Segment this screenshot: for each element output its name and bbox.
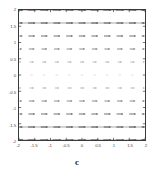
field-arrow xyxy=(19,126,22,128)
field-arrow xyxy=(19,10,22,11)
x-tick-label: -0.5 xyxy=(63,143,70,148)
field-arrow xyxy=(19,113,22,115)
field-arrow xyxy=(105,61,109,62)
field-arrow xyxy=(53,126,60,128)
field-arrow xyxy=(129,22,136,24)
field-arrow xyxy=(130,100,136,102)
field-arrow xyxy=(55,61,59,62)
field-arrow xyxy=(28,35,34,37)
field-arrow xyxy=(91,22,98,24)
field-arrow xyxy=(141,10,144,11)
y-tick-label: 0 xyxy=(14,73,16,78)
field-arrow xyxy=(41,48,47,50)
field-arrow xyxy=(28,139,36,140)
field-arrow xyxy=(54,100,60,102)
field-arrow xyxy=(116,22,123,24)
field-arrow xyxy=(118,87,122,88)
field-arrow xyxy=(79,126,86,128)
field-arrow xyxy=(103,10,111,11)
field-arrow xyxy=(128,10,136,11)
field-arrow xyxy=(28,113,34,115)
field-arrow xyxy=(19,48,21,50)
field-arrow xyxy=(19,22,22,24)
field-arrow xyxy=(130,48,136,50)
field-arrow xyxy=(143,87,145,88)
y-axis-tick-labels: 21.510.50-0.5-1-1.5-2 xyxy=(0,9,16,141)
field-arrow xyxy=(143,61,145,62)
field-arrow xyxy=(104,113,110,115)
field-arrow xyxy=(130,87,134,88)
field-arrow xyxy=(116,139,124,140)
field-arrow xyxy=(54,35,60,37)
field-arrow xyxy=(28,10,36,11)
field-arrow xyxy=(41,113,47,115)
field-arrow xyxy=(67,87,71,88)
field-arrow xyxy=(103,139,111,140)
field-arrow xyxy=(29,48,35,50)
field-arrow xyxy=(65,10,73,11)
y-tick-label: 1 xyxy=(14,40,16,45)
x-tick-label: -1 xyxy=(48,143,52,148)
field-arrow xyxy=(66,35,72,37)
field-arrow xyxy=(104,126,111,128)
field-arrow xyxy=(130,61,134,62)
field-arrow xyxy=(142,35,145,37)
field-arrow xyxy=(28,22,35,24)
field-arrow xyxy=(91,139,99,140)
field-arrow xyxy=(129,35,135,37)
y-tick-label: -1.5 xyxy=(9,122,16,127)
field-arrow xyxy=(79,48,85,50)
field-arrow xyxy=(41,35,47,37)
field-arrow xyxy=(118,61,122,62)
field-arrow xyxy=(41,100,47,102)
field-arrow xyxy=(30,87,34,88)
field-arrow xyxy=(67,100,73,102)
field-arrow xyxy=(142,113,145,115)
field-arrow xyxy=(65,139,73,140)
field-arrow xyxy=(104,100,110,102)
field-arrow xyxy=(92,48,98,50)
field-arrow xyxy=(19,139,22,140)
field-arrow xyxy=(117,113,123,115)
field-arrow xyxy=(129,126,136,128)
field-arrow xyxy=(42,87,46,88)
x-axis-tick-labels: -2-1.5-1-0.500.511.52 xyxy=(18,143,146,151)
field-arrow xyxy=(79,35,85,37)
field-arrow xyxy=(91,10,99,11)
field-arrow xyxy=(142,100,144,102)
field-arrow xyxy=(54,113,60,115)
y-tick-label: 0.5 xyxy=(10,56,16,61)
field-arrow xyxy=(116,10,124,11)
field-arrow xyxy=(93,87,97,88)
field-arrow xyxy=(128,139,136,140)
field-arrow xyxy=(104,35,110,37)
field-arrow xyxy=(79,113,85,115)
plot-area xyxy=(18,9,146,141)
x-tick-label: 0 xyxy=(81,143,83,148)
field-arrow xyxy=(66,22,73,24)
field-arrow xyxy=(104,22,111,24)
field-arrow xyxy=(93,61,97,62)
field-arrow xyxy=(19,35,22,37)
field-arrow xyxy=(19,61,21,62)
direction-field-figure: 21.510.50-0.5-1-1.5-2 -2-1.5-1-0.500.511… xyxy=(0,0,154,176)
direction-field-canvas xyxy=(19,10,145,140)
field-arrow xyxy=(66,126,73,128)
field-arrow xyxy=(19,87,21,88)
x-axis-title: c xyxy=(0,157,154,167)
field-arrow xyxy=(116,126,123,128)
field-arrow xyxy=(129,113,135,115)
field-arrow xyxy=(40,139,48,140)
field-arrow xyxy=(80,61,84,62)
field-arrow xyxy=(19,100,21,102)
x-tick-label: 1 xyxy=(113,143,115,148)
x-tick-label: 0.5 xyxy=(95,143,101,148)
field-arrow xyxy=(66,113,72,115)
field-arrow xyxy=(117,35,123,37)
x-tick-label: 2 xyxy=(145,143,147,148)
y-tick-label: 1.5 xyxy=(10,23,16,28)
field-arrow xyxy=(142,48,144,50)
x-tick-label: -1.5 xyxy=(31,143,38,148)
field-arrow xyxy=(142,22,145,24)
field-arrow xyxy=(79,100,85,102)
